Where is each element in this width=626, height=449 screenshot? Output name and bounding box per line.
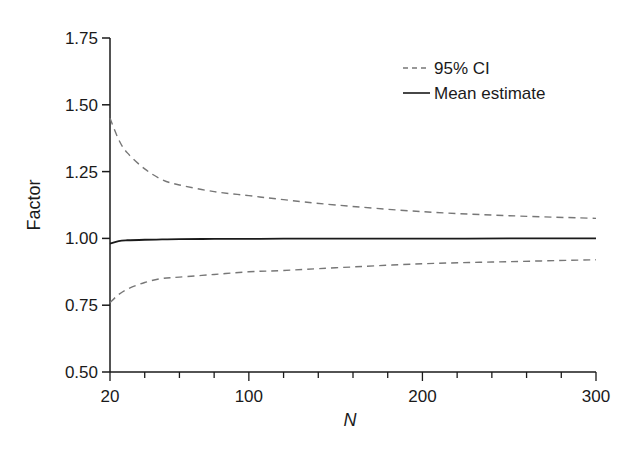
line-chart: 0.500.751.001.251.501.7520100200300 95% … xyxy=(0,0,626,449)
x-tick-label: 20 xyxy=(101,387,120,406)
y-tick-label: 0.75 xyxy=(65,296,98,315)
series-95-ci-upper xyxy=(110,118,596,218)
x-tick-label: 100 xyxy=(235,387,263,406)
y-tick-label: 1.50 xyxy=(65,96,98,115)
x-tick-label: 200 xyxy=(408,387,436,406)
y-tick-label: 1.00 xyxy=(65,229,98,248)
y-tick-label: 0.50 xyxy=(65,363,98,382)
y-tick-label: 1.25 xyxy=(65,163,98,182)
plot-lines xyxy=(110,118,596,302)
legend-label-mean: Mean estimate xyxy=(434,84,546,103)
legend: 95% CI Mean estimate xyxy=(403,59,546,103)
y-axis-title: Factor xyxy=(24,179,44,230)
y-tick-label: 1.75 xyxy=(65,29,98,48)
series-mean-estimate xyxy=(110,238,596,243)
x-tick-label: 300 xyxy=(582,387,610,406)
legend-label-ci: 95% CI xyxy=(434,59,490,78)
series-95-ci-lower xyxy=(110,260,596,303)
x-axis-title: N xyxy=(344,410,358,430)
